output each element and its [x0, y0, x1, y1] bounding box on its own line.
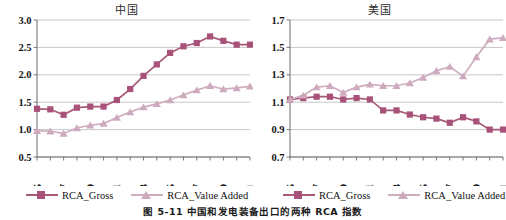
chart-legend: RCA_Gross RCA_Value Added RCA_Gross — [0, 187, 506, 203]
ytick-label: 2.0 — [18, 69, 31, 80]
ytick-label: 1.1 — [271, 97, 284, 108]
legend-entry-value-added: RCA_Value Added — [131, 190, 248, 201]
legend-label-value-added: RCA_Value Added — [424, 190, 505, 201]
data-point-square — [114, 97, 120, 103]
legend-entry-gross: RCA_Gross — [26, 190, 113, 201]
data-point-square — [473, 118, 479, 124]
chart-plot-usa: 0.70.91.11.31.51.71995199719992001200320… — [253, 0, 506, 186]
chart-panel-china: 中国 0.51.01.52.02.53.01995199719992001200… — [0, 0, 253, 186]
xtick-label: 2001 — [364, 184, 375, 186]
xtick-label: 1999 — [85, 184, 96, 186]
data-point-square — [393, 107, 399, 113]
xtick-label: 2005 — [165, 184, 176, 186]
legend-marker-square-icon — [283, 190, 315, 200]
ytick-label: 1.3 — [271, 69, 284, 80]
data-point-square — [327, 94, 333, 100]
figure-rca-indices: 中国 0.51.01.52.02.53.01995199719992001200… — [0, 0, 506, 220]
data-point-square — [380, 107, 386, 113]
xtick-label: 2007 — [191, 184, 202, 186]
data-point-square — [34, 106, 40, 112]
legend-entry-gross: RCA_Gross — [283, 190, 370, 201]
data-point-square — [314, 94, 320, 100]
xtick-label: 2011 — [498, 184, 506, 186]
figure-caption: 图 5-11 中国和发电装备出口的两种 RCA 指数 — [0, 204, 506, 218]
xtick-label: 2003 — [138, 184, 149, 186]
legend-label-gross: RCA_Gross — [62, 190, 113, 201]
data-point-square — [47, 106, 53, 112]
chart-panels: 中国 0.51.01.52.02.53.01995199719992001200… — [0, 0, 506, 186]
data-point-square — [407, 111, 413, 117]
data-point-square — [100, 103, 106, 109]
data-point-square — [353, 95, 359, 101]
xtick-label: 1995 — [285, 184, 296, 186]
data-point-square — [447, 120, 453, 126]
chart-plot-china: 0.51.01.52.02.53.01995199719992001200320… — [0, 0, 253, 186]
data-point-triangle — [113, 114, 121, 121]
xtick-label: 2005 — [418, 184, 429, 186]
xtick-label: 2007 — [444, 184, 455, 186]
legend-group-usa: RCA_Gross RCA_Value Added — [283, 187, 506, 203]
xtick-label: 1999 — [338, 184, 349, 186]
data-point-square — [180, 43, 186, 49]
legend-label-gross: RCA_Gross — [319, 190, 370, 201]
data-point-triangle — [446, 63, 454, 70]
data-point-triangle — [206, 82, 214, 89]
data-point-square — [367, 96, 373, 102]
legend-marker-square-icon — [26, 190, 58, 200]
legend-marker-triangle-icon — [131, 190, 163, 200]
ytick-label: 0.5 — [18, 152, 31, 163]
legend-label-value-added: RCA_Value Added — [167, 190, 248, 201]
xtick-label: 1997 — [311, 184, 322, 186]
ytick-label: 1.0 — [18, 124, 31, 135]
ytick-label: 1.7 — [271, 15, 284, 26]
legend-entry-value-added: RCA_Value Added — [388, 190, 505, 201]
data-point-square — [154, 61, 160, 67]
xtick-label: 1997 — [58, 184, 69, 186]
data-point-square — [140, 73, 146, 79]
data-point-triangle — [339, 89, 347, 96]
data-point-square — [127, 86, 133, 92]
data-point-square — [500, 127, 506, 133]
data-point-square — [420, 114, 426, 120]
xtick-label: 2009 — [218, 184, 229, 186]
ytick-label: 1.5 — [271, 42, 284, 53]
data-point-square — [74, 105, 80, 111]
ytick-label: 1.5 — [18, 97, 31, 108]
data-point-square — [220, 38, 226, 44]
data-point-square — [207, 33, 213, 39]
ytick-label: 3.0 — [18, 15, 31, 26]
data-point-square — [87, 103, 93, 109]
chart-panel-usa: 美国 0.70.91.11.31.51.71995199719992001200… — [253, 0, 506, 186]
legend-group-china: RCA_Gross RCA_Value Added — [26, 187, 266, 203]
xtick-label: 2001 — [111, 184, 122, 186]
xtick-label: 1995 — [32, 184, 43, 186]
xtick-label: 2009 — [471, 184, 482, 186]
xtick-label: 2011 — [245, 184, 254, 186]
ytick-label: 2.5 — [18, 42, 31, 53]
ytick-label: 0.7 — [271, 152, 284, 163]
data-point-square — [433, 116, 439, 122]
data-point-square — [61, 112, 67, 118]
data-point-square — [460, 114, 466, 120]
data-point-square — [194, 40, 200, 46]
legend-marker-triangle-icon — [388, 190, 420, 200]
data-point-square — [167, 50, 173, 56]
ytick-label: 0.9 — [271, 124, 284, 135]
data-point-square — [340, 96, 346, 102]
xtick-label: 2003 — [391, 184, 402, 186]
data-point-square — [234, 42, 240, 48]
data-point-square — [487, 127, 493, 133]
